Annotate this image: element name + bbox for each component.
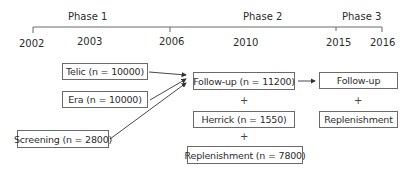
plus-sign: + (240, 96, 248, 106)
followup-phase2-box: Follow-up (n = 11200) (193, 72, 295, 90)
replenishment-phase2-box: Replenishment (n = 7800) (187, 146, 303, 164)
era-box: Era (n = 10000) (62, 91, 148, 108)
plus-sign: + (354, 96, 362, 106)
year-2003: 2003 (77, 36, 102, 48)
arrow-era-to-followup (150, 79, 186, 100)
phase-1-label: Phase 1 (68, 11, 107, 23)
year-2015: 2015 (326, 37, 351, 49)
timeline-axis (33, 27, 382, 33)
telic-box: Telic (n = 10000) (62, 63, 148, 80)
arrow-telic-to-followup (149, 72, 186, 75)
screening-box: Screening (n = 2800) (17, 130, 109, 148)
replenishment-phase3-box: Replenishment (319, 111, 398, 128)
herrick-box: Herrick (n = 1550) (193, 111, 295, 128)
year-2006: 2006 (159, 36, 184, 48)
year-2016: 2016 (370, 37, 395, 49)
year-2010: 2010 (233, 37, 258, 49)
plus-sign: + (240, 132, 248, 142)
phase-2-label: Phase 2 (243, 11, 282, 23)
year-2002: 2002 (19, 38, 44, 50)
followup-phase3-box: Follow-up (319, 72, 398, 89)
phase-3-label: Phase 3 (342, 11, 381, 23)
